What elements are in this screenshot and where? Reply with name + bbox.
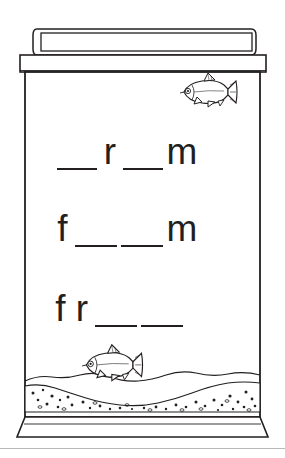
page-divider-rule [0,448,285,449]
aquarium-base [17,417,268,437]
aquarium-illustration [0,0,285,458]
aquarium-rim [20,55,266,72]
worksheet-page: rm fm fr [0,0,285,458]
aquarium-hood-lid [33,29,256,55]
